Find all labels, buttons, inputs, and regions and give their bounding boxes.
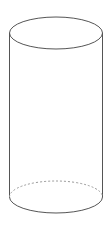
cylinder-base-visible-arc (10, 197, 103, 213)
cylinder-diagram (0, 0, 112, 226)
cylinder-base-hidden-arc (10, 181, 103, 197)
cylinder-top-ellipse (10, 17, 103, 49)
